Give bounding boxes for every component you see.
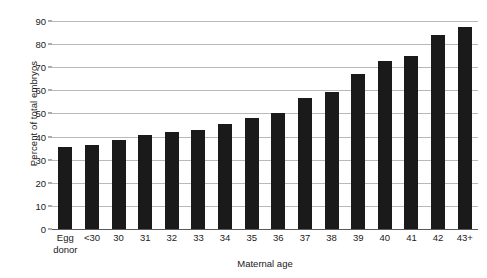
bar — [404, 56, 418, 229]
y-axis-tick-label: 10 — [35, 200, 46, 211]
x-axis-tick-label-line: 38 — [326, 232, 337, 243]
y-axis-tick-label: 70 — [35, 62, 46, 73]
x-axis-tick-label-line: 37 — [300, 232, 311, 243]
x-axis-tick-label-line: 34 — [220, 232, 231, 243]
x-axis-tick-label-line: 39 — [353, 232, 364, 243]
x-axis-tick-label-line: 33 — [193, 232, 204, 243]
x-axis-title: Maternal age — [52, 258, 478, 269]
bar — [218, 124, 232, 229]
y-axis-tick-label: 60 — [35, 85, 46, 96]
bar — [85, 145, 99, 229]
bar — [378, 61, 392, 229]
bar — [165, 132, 179, 229]
x-axis-tick-label-line: 42 — [433, 232, 444, 243]
x-axis-tick-label-line: 31 — [140, 232, 151, 243]
bar — [245, 118, 259, 229]
bar — [458, 27, 472, 229]
x-axis-line — [52, 229, 478, 230]
y-axis-tick-label: 80 — [35, 39, 46, 50]
bar-chart: Percent of total embryos 010203040506070… — [0, 0, 487, 278]
bar — [351, 74, 365, 229]
x-axis-tick-label-line: 41 — [406, 232, 417, 243]
x-axis-tick-label-line: 43+ — [457, 232, 473, 243]
y-axis-tick-label: 40 — [35, 131, 46, 142]
y-axis-tick-label: 50 — [35, 108, 46, 119]
bar — [431, 35, 445, 229]
x-axis-tick-label-line: 40 — [380, 232, 391, 243]
x-axis-tick-label: 43+ — [445, 232, 485, 244]
plot-area: 0102030405060708090 — [52, 21, 478, 229]
bar — [112, 140, 126, 229]
x-axis-tick-label-line: 36 — [273, 232, 284, 243]
y-axis-tick-label: 20 — [35, 177, 46, 188]
y-axis-tick-label: 90 — [35, 16, 46, 27]
bar — [298, 98, 312, 229]
bar — [138, 135, 152, 229]
bar — [191, 130, 205, 229]
x-axis-tick-label-line: 32 — [167, 232, 178, 243]
bar — [271, 113, 285, 229]
bar — [58, 147, 72, 229]
x-axis-tick-label-line: 30 — [113, 232, 124, 243]
y-axis-tick-label: 30 — [35, 154, 46, 165]
bars-group — [52, 21, 478, 229]
x-axis-tick-label-line: donor — [45, 244, 85, 256]
x-axis-tick-label-line: 35 — [246, 232, 257, 243]
bar — [325, 92, 339, 230]
